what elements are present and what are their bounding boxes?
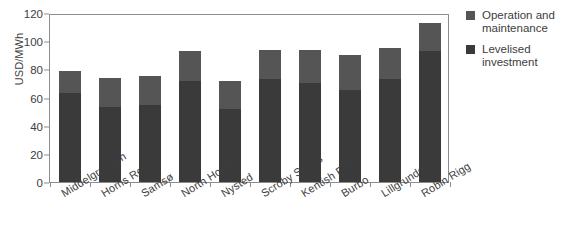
- y-axis-tick-mark: [44, 42, 49, 43]
- legend-label: Levelised investment: [482, 43, 574, 68]
- legend-label: Operation and maintenance: [482, 9, 574, 34]
- bar-segment-operation-and-maintenance: [379, 48, 401, 79]
- bar-stack: [259, 50, 281, 182]
- bar-segment-levelised-investment: [59, 93, 81, 182]
- y-axis-tick-label: 40: [14, 121, 43, 133]
- bar-segment-operation-and-maintenance: [59, 71, 81, 94]
- y-axis-tick-label: 0: [14, 177, 43, 189]
- bar-segment-levelised-investment: [179, 81, 201, 182]
- y-axis-tick-label: 20: [14, 149, 43, 161]
- legend-swatch-operation-and-maintenance: [466, 11, 475, 20]
- y-axis-tick-mark: [44, 98, 49, 99]
- x-axis-tick-mark: [50, 182, 51, 187]
- bar-segment-levelised-investment: [259, 79, 281, 182]
- bar-segment-levelised-investment: [379, 79, 401, 182]
- y-axis-tick-label: 60: [14, 93, 43, 105]
- bar-stack: [179, 51, 201, 182]
- bar-segment-operation-and-maintenance: [219, 81, 241, 109]
- legend-item: Operation and maintenance: [466, 9, 574, 34]
- y-axis-tick-mark: [44, 183, 49, 184]
- bar-stack: [59, 71, 81, 182]
- bar-segment-operation-and-maintenance: [339, 55, 361, 90]
- y-axis-tick-label: 80: [14, 64, 43, 76]
- y-axis-tick-label: 120: [14, 8, 43, 20]
- y-axis-tick-mark: [44, 126, 49, 127]
- bar-segment-operation-and-maintenance: [419, 23, 441, 51]
- bar-segment-operation-and-maintenance: [139, 76, 161, 104]
- stacked-bar-chart: USD/MWh 020406080100120 MiddelgrundenHor…: [0, 0, 577, 251]
- y-axis-tick-mark: [44, 154, 49, 155]
- y-axis-tick-mark: [44, 14, 49, 15]
- chart-legend: Operation and maintenance Levelised inve…: [466, 9, 574, 77]
- legend-swatch-levelised-investment: [466, 45, 475, 54]
- bar-segment-operation-and-maintenance: [99, 78, 121, 108]
- bar-stack: [379, 48, 401, 182]
- bar-stack: [419, 23, 441, 182]
- bar-segment-operation-and-maintenance: [299, 50, 321, 84]
- y-axis-tick-mark: [44, 70, 49, 71]
- legend-item: Levelised investment: [466, 43, 574, 68]
- bar-segment-operation-and-maintenance: [179, 51, 201, 81]
- y-axis-tick-label: 100: [14, 36, 43, 48]
- bar-segment-operation-and-maintenance: [259, 50, 281, 80]
